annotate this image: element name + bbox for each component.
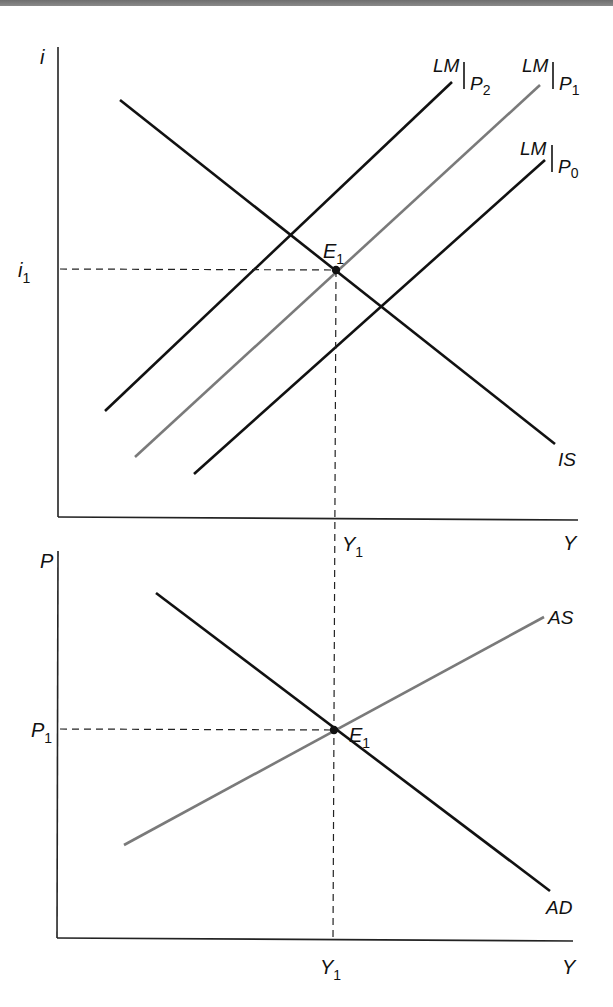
p1-label: P1 [31,719,52,746]
lm-p0-label: LM [520,138,547,159]
y-axis-lower [57,938,573,941]
i1-label: i1 [18,259,30,286]
p-axis [57,551,58,938]
y-axis-upper-label: Y [563,532,578,554]
e1-lower-point [330,726,338,734]
lm-p0-curve [194,160,545,474]
lm-p2-sub: P2 [470,73,491,98]
i1-dashed-guide [60,269,336,270]
ad-label: AD [545,897,573,918]
lm-p2-label: LM [433,55,460,76]
is-label: IS [558,449,576,470]
y-axis-upper [58,517,578,520]
lm-p1-sub: P1 [559,73,580,98]
p-axis-label: P [40,550,54,572]
y-axis-lower-label: Y [562,956,577,978]
i-axis-label: i [40,46,45,68]
lm-p1-label: LM [522,55,549,76]
lm-p0-sub: P0 [558,156,579,181]
y1-upper-label: Y1 [342,533,363,560]
islm-panel: i i1 E1 LM P2 LM P1 LM P0 IS Y1 Y [18,46,580,939]
e1-upper-point [332,266,340,274]
y1-lower-label: Y1 [320,956,341,983]
asad-panel: P P1 E1 AS AD Y1 Y [31,550,577,983]
y1-dashed-guide [333,270,336,939]
p1-dashed-guide [60,729,334,730]
lm-p2-curve [105,82,452,411]
is-lm-as-ad-diagram: i i1 E1 LM P2 LM P1 LM P0 IS Y1 Y P P1 E… [0,0,613,1007]
as-label: AS [547,607,574,628]
